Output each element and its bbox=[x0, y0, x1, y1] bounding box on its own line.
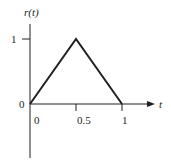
y-axis-label: r(t) bbox=[24, 6, 39, 19]
x-axis-label: t bbox=[159, 98, 163, 110]
y-tick-label-0: 0 bbox=[19, 98, 25, 110]
x-tick-label-05: 0.5 bbox=[77, 114, 91, 126]
x-axis-arrow-icon bbox=[147, 101, 155, 107]
triangle-pulse-chart: r(t) t 1 0 0 0.5 1 bbox=[0, 0, 171, 166]
waveform-r-t bbox=[30, 39, 122, 104]
y-tick-label-1: 1 bbox=[11, 33, 17, 45]
x-tick-label-0: 0 bbox=[34, 114, 40, 126]
x-tick-label-1: 1 bbox=[122, 114, 128, 126]
